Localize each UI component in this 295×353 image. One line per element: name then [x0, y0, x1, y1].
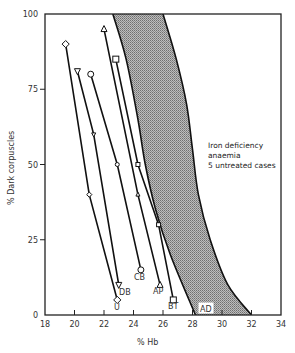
x-tick-label: 22 [99, 320, 109, 329]
y-axis-title: % Dark corpuscles [7, 131, 16, 205]
diamond-marker [62, 41, 69, 48]
x-tick-label: 18 [40, 320, 50, 329]
annotation-line-2: anaemia [208, 151, 241, 160]
x-tick-label: 30 [217, 320, 227, 329]
square-marker [136, 163, 140, 167]
circle-marker [138, 267, 144, 273]
circle-marker [115, 163, 119, 167]
y-tick-label: 100 [23, 10, 38, 19]
series-line [77, 71, 118, 285]
square-marker [157, 223, 161, 227]
triangle-marker [136, 192, 140, 196]
triangle-down-marker [92, 133, 96, 137]
triangle-down-marker [74, 69, 80, 75]
series-line [66, 44, 118, 300]
annotation-line-3: 5 untreated cases [208, 161, 276, 170]
triangle-marker [101, 26, 107, 32]
x-tick-label: 28 [187, 320, 197, 329]
series-label-db: DB [119, 288, 131, 297]
series-label-bt: BT [168, 302, 178, 311]
square-marker [113, 56, 119, 62]
circle-marker [88, 71, 94, 77]
x-tick-label: 34 [276, 320, 286, 329]
series-label-u: U [114, 303, 120, 312]
x-tick-label: 32 [246, 320, 256, 329]
y-tick-label: 75 [28, 85, 38, 94]
x-axis-title: % Hb [137, 338, 158, 347]
series-label-ap: AP [153, 287, 163, 296]
y-tick-label: 50 [28, 161, 38, 170]
annotation-line-1: Iron deficiency [208, 141, 264, 150]
region-label-ad: AD [200, 305, 212, 314]
series-u [62, 41, 121, 304]
chart: 0255075100 182022242628303234 DB U CB AP… [0, 0, 295, 353]
x-tick-label: 24 [128, 320, 138, 329]
y-axis: 0255075100 [23, 10, 45, 320]
x-tick-label: 20 [69, 320, 79, 329]
series-label-cb: CB [134, 273, 145, 282]
diamond-marker [87, 192, 92, 197]
x-tick-label: 26 [158, 320, 168, 329]
y-tick-label: 25 [28, 236, 38, 245]
y-tick-label: 0 [33, 311, 38, 320]
